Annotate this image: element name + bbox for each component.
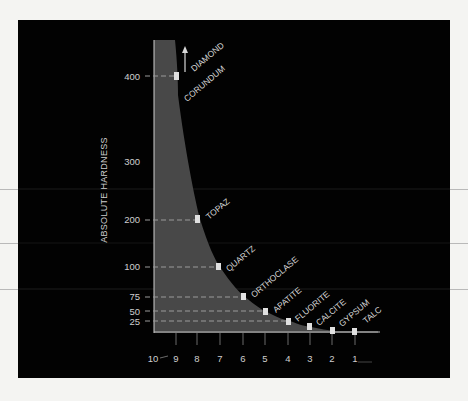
arrow-up-icon	[182, 46, 188, 72]
marker-corundum	[174, 72, 179, 80]
marker-apatite	[263, 308, 268, 315]
x-tick-6: 6	[240, 353, 245, 364]
x-tick-3: 3	[307, 353, 312, 364]
label-quartz: QUARTZ	[224, 244, 257, 274]
x-tick-labels: 10 9 8 7 6 5 4 3 2 1	[148, 353, 358, 364]
label-topaz: TOPAZ	[204, 196, 232, 221]
y-tick-75: 75	[129, 291, 140, 302]
x-tick-2: 2	[329, 353, 334, 364]
x-tick-10: 10	[148, 353, 159, 364]
label-corundum: CORUNDUM	[182, 63, 227, 103]
y-tick-25: 25	[129, 316, 140, 327]
y-tick-300: 300	[124, 156, 140, 167]
x-tick-8: 8	[194, 353, 199, 364]
marker-talc	[352, 328, 357, 335]
y-tick-200: 200	[124, 214, 140, 225]
x-tick-7: 7	[217, 353, 222, 364]
marker-topaz	[195, 215, 200, 223]
y-tick-400: 400	[124, 71, 140, 82]
marker-gypsum	[330, 327, 335, 334]
x-tick-1: 1	[352, 353, 357, 364]
hardness-chart: 400 300 200 100 75 50 25 10 9 8 7 6 5 4 …	[0, 0, 468, 401]
x-tick-4: 4	[285, 353, 290, 364]
x-tick-5: 5	[262, 353, 267, 364]
marker-orthoclase	[241, 293, 246, 300]
marker-quartz	[216, 263, 221, 270]
y-tick-100: 100	[124, 261, 140, 272]
marker-fluorite	[286, 318, 291, 325]
marker-calcite	[307, 323, 312, 330]
x-tick-9: 9	[173, 353, 178, 364]
y-axis-label: ABSOLUTE HARDNESS	[99, 137, 109, 243]
